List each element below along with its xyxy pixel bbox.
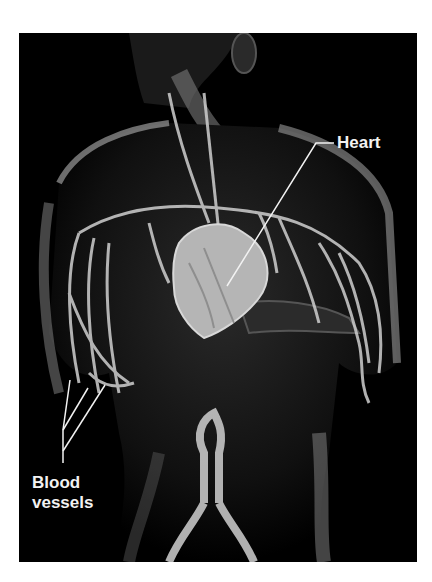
circulatory-system-illustration: Heart Blood vessels: [19, 33, 417, 562]
vessels-leader-line-2: [63, 388, 88, 430]
blood-vessels-label-line1: Blood: [32, 473, 93, 493]
blood-vessels-label-line2: vessels: [32, 493, 93, 513]
blood-vessels-label: Blood vessels: [32, 473, 93, 513]
heart-label: Heart: [337, 133, 380, 153]
